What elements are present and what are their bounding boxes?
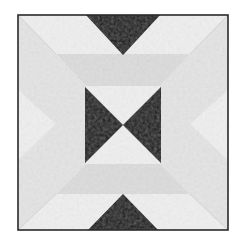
quilt-block-image	[0, 0, 240, 241]
quilt-block-svg	[0, 0, 240, 241]
